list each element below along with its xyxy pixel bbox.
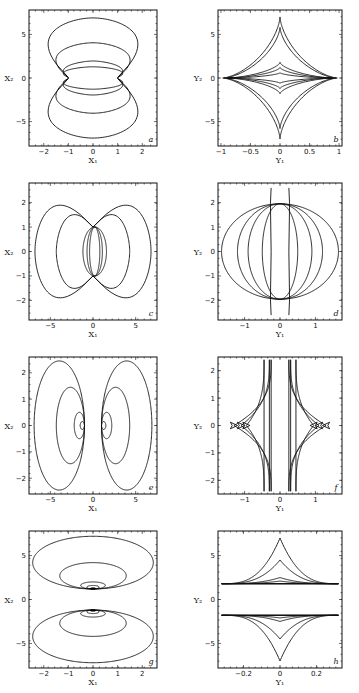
panel-e: −505−2−1012X₁X₂e — [5, 357, 157, 513]
curves — [223, 17, 338, 139]
plot-frame — [218, 531, 342, 668]
x-tick-label: −1 — [63, 148, 73, 156]
curves — [222, 538, 339, 661]
x-axis-label: X₁ — [89, 504, 98, 513]
x-tick-label: −0.2 — [235, 670, 252, 678]
panel-label: f — [334, 483, 340, 492]
x-axis-label: X₁ — [89, 156, 98, 165]
x-tick-label: −1 — [216, 148, 226, 156]
panel-a: −2−1012−505X₁X₂a — [5, 10, 157, 165]
x-axis-label: Y₁ — [275, 678, 285, 687]
y-tick-label: −5 — [16, 640, 26, 648]
x-tick-label: 0 — [91, 670, 95, 678]
y-tick-label: −2 — [205, 297, 215, 305]
y-axis-label: X₂ — [5, 248, 14, 257]
y-tick-label: −5 — [205, 118, 215, 126]
plot-frame — [29, 183, 157, 320]
y-axis-label: Y₂ — [193, 422, 203, 431]
panel-h: −0.200.2−505Y₁Y₂h — [193, 531, 342, 687]
y-tick-label: −2 — [16, 475, 26, 483]
panel-label: h — [333, 657, 338, 666]
x-tick-label: 0 — [278, 670, 282, 678]
curves — [222, 188, 339, 315]
panel-label: e — [149, 483, 154, 492]
x-tick-label: 1 — [313, 322, 317, 330]
x-axis-label: Y₁ — [275, 504, 285, 513]
plot-frame — [29, 531, 157, 668]
plot-frame — [29, 357, 157, 494]
x-tick-label: 0 — [91, 148, 95, 156]
x-tick-label: −0.5 — [242, 148, 259, 156]
y-tick-label: −5 — [16, 118, 26, 126]
panel-c: −505−2−1012X₁X₂c — [5, 183, 157, 339]
panel-label: g — [148, 657, 153, 666]
y-tick-label: 2 — [22, 369, 26, 377]
curves — [35, 205, 151, 298]
x-tick-label: 5 — [133, 496, 137, 504]
panel-label: b — [333, 135, 338, 144]
y-tick-label: 2 — [211, 367, 215, 375]
x-axis-label: Y₁ — [275, 156, 285, 165]
x-tick-label: 1 — [115, 670, 119, 678]
panel-label: a — [149, 135, 154, 144]
x-axis-label: X₁ — [89, 330, 98, 339]
curves — [230, 360, 329, 492]
x-tick-label: 5 — [133, 322, 137, 330]
y-tick-label: 0 — [211, 596, 215, 604]
y-tick-label: 1 — [22, 224, 26, 232]
x-tick-label: 1 — [115, 148, 119, 156]
y-tick-label: 2 — [22, 199, 26, 207]
y-tick-label: 0 — [211, 422, 215, 430]
x-tick-label: 0 — [278, 322, 282, 330]
y-axis-label: X₂ — [5, 596, 14, 605]
x-tick-label: −1 — [239, 322, 249, 330]
panel-d: −101−2−1012Y₁Y₂d — [193, 183, 342, 339]
y-tick-label: −5 — [205, 640, 215, 648]
y-tick-label: −2 — [205, 477, 215, 485]
panel-g: −2−1012−505X₁X₂g — [5, 531, 157, 687]
y-tick-label: 5 — [22, 552, 26, 560]
curves — [33, 536, 154, 662]
y-tick-label: 0 — [22, 75, 26, 83]
y-axis-label: Y₂ — [193, 596, 203, 605]
y-tick-label: −1 — [16, 448, 26, 456]
panel-label: d — [333, 309, 338, 318]
y-tick-label: 5 — [211, 31, 215, 39]
x-tick-label: 1 — [337, 148, 341, 156]
y-tick-label: 5 — [211, 552, 215, 560]
x-tick-label: 0 — [91, 322, 95, 330]
x-axis-label: Y₁ — [275, 330, 285, 339]
x-tick-label: 0.2 — [311, 670, 322, 678]
x-tick-label: 2 — [140, 670, 144, 678]
x-tick-label: 0 — [278, 496, 282, 504]
y-tick-label: 5 — [22, 31, 26, 39]
x-tick-label: 1 — [313, 496, 317, 504]
x-tick-label: −1 — [239, 496, 249, 504]
y-tick-label: 0 — [22, 596, 26, 604]
curves — [34, 361, 152, 490]
y-tick-label: −1 — [205, 449, 215, 457]
y-axis-label: Y₂ — [193, 74, 203, 83]
y-tick-label: 1 — [22, 396, 26, 404]
x-tick-label: −5 — [45, 496, 55, 504]
curves — [48, 18, 138, 138]
y-tick-label: −1 — [16, 272, 26, 280]
y-axis-label: Y₂ — [193, 248, 203, 257]
panel-label: c — [149, 309, 154, 318]
x-tick-label: 0 — [91, 496, 95, 504]
x-tick-label: −2 — [39, 670, 49, 678]
y-tick-label: 2 — [211, 199, 215, 207]
y-tick-label: 0 — [22, 248, 26, 256]
y-axis-label: X₂ — [5, 422, 14, 431]
figure: −2−1012−505X₁X₂a−1−0.500.51−505Y₁Y₂b−505… — [0, 0, 359, 693]
y-tick-label: 0 — [22, 422, 26, 430]
y-tick-label: −1 — [205, 272, 215, 280]
x-tick-label: 0.5 — [304, 148, 315, 156]
x-tick-label: −5 — [45, 322, 55, 330]
x-tick-label: −2 — [39, 148, 49, 156]
plot-frame — [29, 10, 157, 146]
y-tick-label: 1 — [211, 395, 215, 403]
y-tick-label: −2 — [16, 297, 26, 305]
x-tick-label: 2 — [140, 148, 144, 156]
y-tick-label: 1 — [211, 224, 215, 232]
